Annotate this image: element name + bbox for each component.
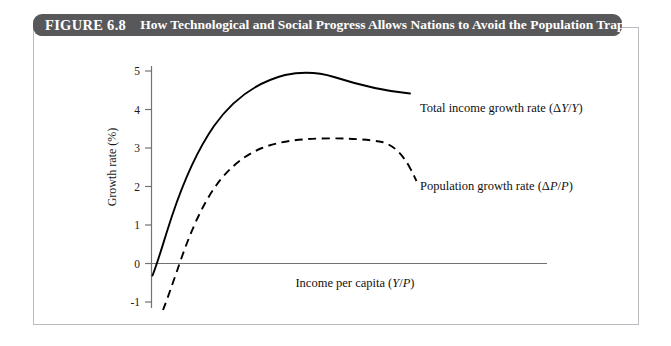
figure-number-label: FIGURE 6.8 xyxy=(45,17,126,34)
figure-caption-label: How Technological and Social Progress Al… xyxy=(140,17,622,33)
figure-container: FIGURE 6.8 How Technological and Social … xyxy=(0,0,671,346)
figure-frame xyxy=(33,27,639,325)
figure-title-banner: FIGURE 6.8 How Technological and Social … xyxy=(33,14,622,36)
